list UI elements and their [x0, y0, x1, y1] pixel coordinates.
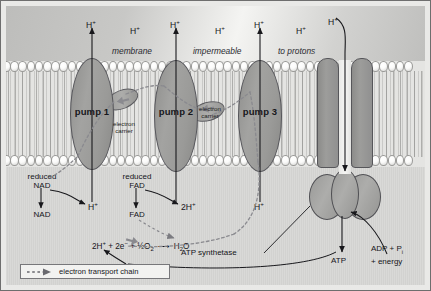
arrow-overlay — [6, 6, 425, 285]
legend-dashed-arrow-icon — [26, 267, 56, 277]
pump-3-label: pump 3 — [232, 106, 288, 117]
legend-box: electron transport chain — [20, 264, 170, 279]
pump-1-label: pump 1 — [64, 106, 120, 117]
legend-label: electron transport chain — [59, 267, 138, 276]
electron-carrier-2-label: electroncarrier — [188, 105, 232, 120]
electron-carrier-1-label: electroncarrier — [102, 120, 146, 135]
figure-plate: H+ H+ H+ H+ H+ H+ H+ membrane impermeabl… — [6, 6, 425, 285]
chemiosmosis-diagram: H+ H+ H+ H+ H+ H+ H+ membrane impermeabl… — [0, 0, 431, 291]
